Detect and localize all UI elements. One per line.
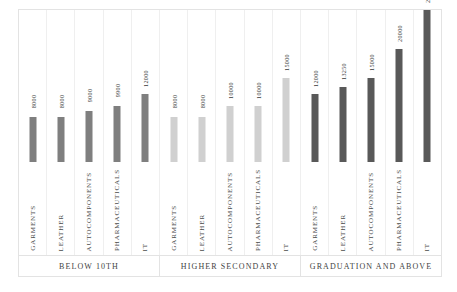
category-label-wrap: AUTOCOMPONENTS xyxy=(357,163,384,251)
category-label: LEATHER xyxy=(198,214,206,251)
bar-column[interactable]: 9900PHARMACEUTICALS xyxy=(104,10,132,255)
bar-column[interactable]: 12000GARMENTS xyxy=(301,10,329,255)
bar[interactable] xyxy=(29,117,36,162)
bar-chart: 8000GARMENTS8000LEATHER9000AUTOCOMPONENT… xyxy=(0,0,457,292)
bar-column[interactable]: 8000LEATHER xyxy=(47,10,75,255)
bar-value-label: 8000 xyxy=(170,95,177,109)
bar[interactable] xyxy=(255,106,262,162)
bar[interactable] xyxy=(170,117,177,162)
group-axis-label: GRADUATION AND ABOVE xyxy=(310,262,432,271)
category-label: PHARMACEUTICALS xyxy=(113,169,121,251)
category-label-wrap: GARMENTS xyxy=(301,163,328,251)
bar-column[interactable]: 8000GARMENTS xyxy=(160,10,188,255)
category-label-wrap: IT xyxy=(273,163,300,251)
bar-value-label: 8000 xyxy=(198,95,205,109)
category-label: IT xyxy=(141,243,149,251)
bar-value-label: 9000 xyxy=(86,89,93,103)
group-axis-cell: BELOW 10TH xyxy=(19,256,160,276)
category-label-wrap: GARMENTS xyxy=(160,163,187,251)
category-label: PHARMACEUTICALS xyxy=(395,169,403,251)
bar-column[interactable]: 15000AUTOCOMPONENTS xyxy=(357,10,385,255)
bar[interactable] xyxy=(57,117,64,162)
category-label-wrap: AUTOCOMPONENTS xyxy=(216,163,243,251)
group-axis-label: BELOW 10TH xyxy=(59,262,119,271)
category-label: AUTOCOMPONENTS xyxy=(85,172,93,251)
bar-column[interactable]: 15000IT xyxy=(273,10,301,255)
bar[interactable] xyxy=(424,10,431,162)
bar-value-label: 10000 xyxy=(227,82,234,99)
category-label: IT xyxy=(282,243,290,251)
bar-column[interactable]: 8000GARMENTS xyxy=(19,10,47,255)
bar-value-label: 9900 xyxy=(114,84,121,98)
bar-column[interactable]: 10000AUTOCOMPONENTS xyxy=(216,10,244,255)
category-label: PHARMACEUTICALS xyxy=(254,169,262,251)
category-label-wrap: GARMENTS xyxy=(19,163,46,251)
bar[interactable] xyxy=(283,78,290,162)
category-label: GARMENTS xyxy=(29,205,37,251)
category-label: GARMENTS xyxy=(170,205,178,251)
bar-value-label: 12000 xyxy=(142,70,149,87)
bar[interactable] xyxy=(142,94,149,162)
category-label-wrap: LEATHER xyxy=(188,163,215,251)
group-axis-container: BELOW 10THHIGHER SECONDARYGRADUATION AND… xyxy=(19,255,441,276)
bar[interactable] xyxy=(311,94,318,162)
bar[interactable] xyxy=(396,49,403,162)
category-label-wrap: IT xyxy=(414,163,441,251)
bar[interactable] xyxy=(339,87,346,162)
bar-column[interactable]: 13250LEATHER xyxy=(329,10,357,255)
group-axis-cell: HIGHER SECONDARY xyxy=(160,256,301,276)
category-label-wrap: LEATHER xyxy=(47,163,74,251)
bar-value-label: 8000 xyxy=(57,95,64,109)
category-label-wrap: PHARMACEUTICALS xyxy=(104,163,131,251)
category-label: LEATHER xyxy=(339,214,347,251)
bar-value-label: 12000 xyxy=(311,70,318,87)
bar-column[interactable]: 12000IT xyxy=(132,10,160,255)
bar-value-label: 27000 xyxy=(424,0,431,3)
bar[interactable] xyxy=(227,106,234,162)
bar[interactable] xyxy=(86,111,93,162)
bar[interactable] xyxy=(368,78,375,162)
bar-value-label: 15000 xyxy=(283,54,290,71)
bar-value-label: 10000 xyxy=(255,82,262,99)
bar[interactable] xyxy=(114,106,121,162)
bar-column[interactable]: 20000PHARMACEUTICALS xyxy=(386,10,414,255)
category-label: AUTOCOMPONENTS xyxy=(226,172,234,251)
bar-column[interactable]: 10000PHARMACEUTICALS xyxy=(245,10,273,255)
category-label: GARMENTS xyxy=(311,205,319,251)
bar-column[interactable]: 9000AUTOCOMPONENTS xyxy=(75,10,103,255)
category-label: LEATHER xyxy=(57,214,65,251)
bar-value-label: 15000 xyxy=(368,54,375,71)
category-label-wrap: AUTOCOMPONENTS xyxy=(75,163,102,251)
category-label-wrap: LEATHER xyxy=(329,163,356,251)
category-label: IT xyxy=(423,243,431,251)
bars-container: 8000GARMENTS8000LEATHER9000AUTOCOMPONENT… xyxy=(19,10,441,255)
bar-column[interactable]: 8000LEATHER xyxy=(188,10,216,255)
group-axis-cell: GRADUATION AND ABOVE xyxy=(301,256,441,276)
bar-value-label: 8000 xyxy=(29,95,36,109)
category-label-wrap: PHARMACEUTICALS xyxy=(245,163,272,251)
category-label-wrap: IT xyxy=(132,163,159,251)
bar-column[interactable]: 27000IT xyxy=(414,10,441,255)
bar-value-label: 13250 xyxy=(339,63,346,80)
group-axis-label: HIGHER SECONDARY xyxy=(181,262,279,271)
category-label-wrap: PHARMACEUTICALS xyxy=(386,163,413,251)
bar-value-label: 20000 xyxy=(396,25,403,42)
bar[interactable] xyxy=(198,117,205,162)
category-label: AUTOCOMPONENTS xyxy=(367,172,375,251)
